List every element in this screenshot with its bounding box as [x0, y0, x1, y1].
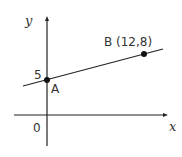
y-axis-arrow-icon: [45, 16, 49, 21]
origin-label: 0: [33, 121, 41, 135]
point-a-label: A: [51, 82, 60, 96]
x-axis-label: x: [169, 119, 177, 134]
point-b-label: B (12,8): [104, 35, 152, 49]
y-tick-label-5: 5: [34, 68, 42, 82]
point-a: [44, 77, 50, 83]
y-axis-label: y: [24, 13, 33, 28]
coordinate-diagram: y x 0 5 A B (12,8): [0, 0, 182, 157]
x-axis-arrow-icon: [163, 113, 168, 117]
x-axis: [14, 113, 168, 117]
point-b: [141, 51, 147, 57]
